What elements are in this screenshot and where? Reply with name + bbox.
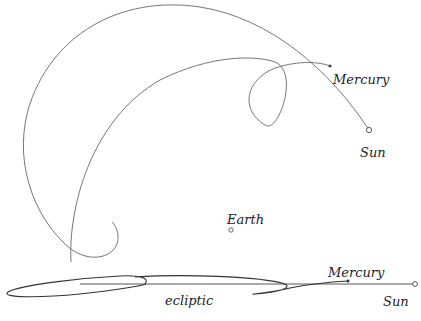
orbit-diagram: Mercury Sun Earth Mercury Sun ecliptic (0, 0, 421, 321)
mercury-side-sweep (135, 276, 348, 295)
mercury-label-top: Mercury (332, 72, 390, 87)
mercury-side-loop-left (7, 276, 146, 297)
ecliptic-label: ecliptic (165, 293, 214, 308)
mercury-path-inner-arc (71, 58, 330, 262)
mercury-dot (328, 64, 331, 67)
mercury-path-outer-arc (23, 5, 369, 257)
sun-label-side: Sun (383, 294, 409, 309)
sun-marker-side (413, 282, 418, 287)
earth-marker (229, 228, 233, 232)
sun-label-top: Sun (360, 145, 386, 160)
sun-marker-top (366, 127, 371, 132)
mercury-label-side: Mercury (327, 265, 385, 280)
earth-label: Earth (226, 212, 264, 227)
